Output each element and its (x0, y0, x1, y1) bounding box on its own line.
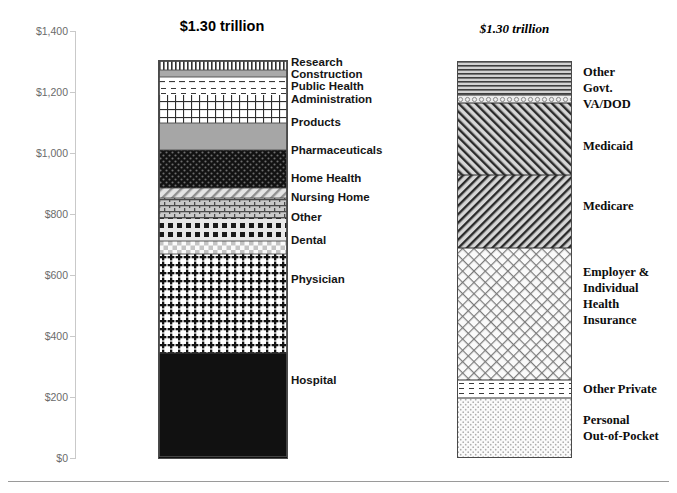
bar-segment-va-dod (457, 95, 572, 103)
label-public-health: Public Health (291, 80, 364, 93)
y-tick-label: $600 (6, 270, 68, 281)
label-employer-line4: Insurance (583, 312, 649, 328)
label-research: Research (291, 56, 343, 69)
label-other-govt: Other Govt. (583, 64, 615, 96)
y-tick-mark (70, 397, 76, 398)
y-tick-mark (70, 458, 76, 459)
label-personal-out-of-pocket: Personal Out-of-Pocket (583, 412, 659, 444)
label-other: Other (291, 211, 322, 224)
y-tick-label: $1,400 (6, 26, 68, 37)
bar-segment-medicare (457, 175, 572, 248)
label-administration: Administration (291, 93, 372, 106)
label-medicare: Medicare (583, 198, 633, 214)
y-tick-label: $1,200 (6, 87, 68, 98)
label-nursing-home: Nursing Home (291, 191, 370, 204)
label-pharmaceuticals: Pharmaceuticals (291, 144, 382, 157)
label-personal-line2: Out-of-Pocket (583, 428, 659, 444)
right-chart-title: $1.30 trillion (457, 21, 572, 37)
label-products: Products (291, 116, 341, 129)
bar-segment-other-govt (457, 61, 572, 95)
y-tick-mark (70, 92, 76, 93)
bar-segment-medicaid (457, 103, 572, 175)
label-other-govt-line2: Govt. (583, 80, 615, 96)
label-other-private: Other Private (583, 381, 657, 397)
label-dental: Dental (291, 234, 326, 247)
label-employer-individual: Employer & Individual Health Insurance (583, 264, 649, 328)
label-employer-line3: Health (583, 296, 649, 312)
y-tick-label: $0 (6, 453, 68, 464)
y-tick-mark (70, 31, 76, 32)
label-other-govt-line1: Other (583, 64, 615, 80)
bar-segment-other-private (457, 380, 572, 398)
label-physician: Physician (291, 273, 345, 286)
footer-divider (8, 481, 669, 482)
label-employer-line1: Employer & (583, 264, 649, 280)
label-va-dod: VA/DOD (583, 96, 631, 112)
label-personal-line1: Personal (583, 412, 659, 428)
y-tick-label: $400 (6, 331, 68, 342)
label-medicaid: Medicaid (583, 138, 633, 154)
y-tick-mark (70, 336, 76, 337)
y-tick-label: $800 (6, 209, 68, 220)
label-construction: Construction (291, 68, 363, 81)
label-home-health: Home Health (291, 172, 361, 185)
y-axis-line (75, 31, 76, 459)
bar-segment-employer-individual (457, 248, 572, 380)
y-tick-label: $1,000 (6, 148, 68, 159)
label-hospital: Hospital (291, 374, 336, 387)
label-employer-line2: Individual (583, 280, 649, 296)
y-tick-label: $200 (6, 392, 68, 403)
y-tick-mark (70, 153, 76, 154)
bar-segment-personal-out-of-pocket (457, 398, 572, 458)
left-bar-pattern-layer (159, 61, 287, 457)
y-tick-mark (70, 214, 76, 215)
left-chart-title: $1.30 trillion (158, 18, 286, 34)
stacked-bar-by-source[interactable] (457, 61, 572, 458)
chart-canvas: $1,400 $1,200 $1,000 $800 $600 $400 $200… (0, 0, 677, 493)
y-tick-mark (70, 275, 76, 276)
